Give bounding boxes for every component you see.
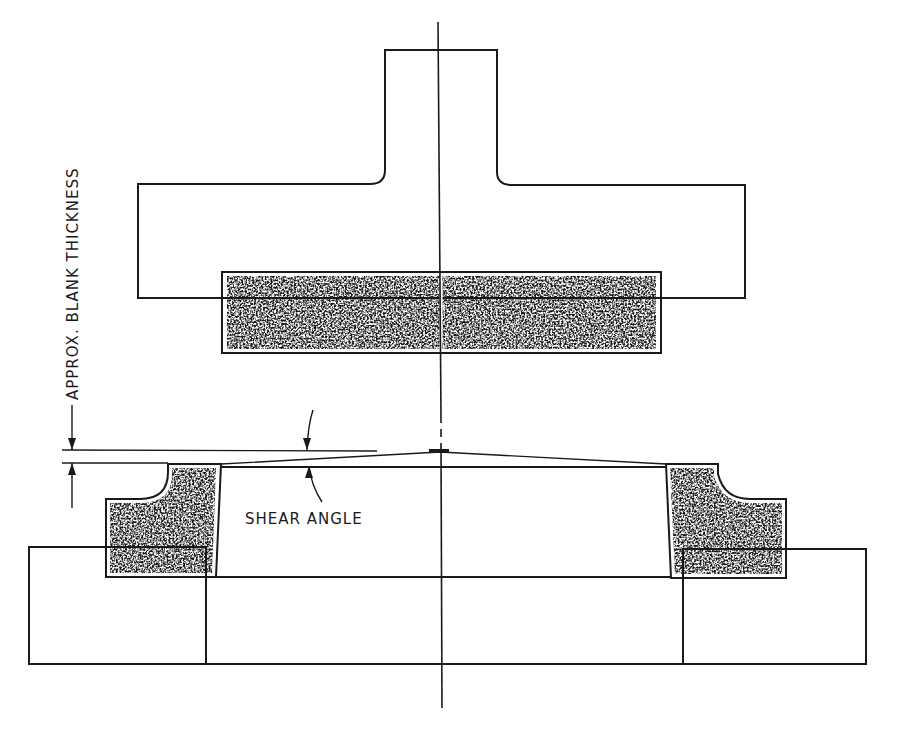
lower-die-insert-right	[666, 464, 786, 578]
die-cross-section-diagram: APPROX. BLANK THICKNESS SHEAR ANGLE	[0, 0, 897, 732]
lower-die-insert-left	[106, 464, 221, 577]
upper-punch-holder	[138, 50, 745, 298]
blank-thickness-dimension	[68, 405, 76, 508]
blank-thickness-label: APPROX. BLANK THICKNESS	[64, 168, 82, 400]
center-line	[438, 22, 442, 708]
shear-angle-label: SHEAR ANGLE	[245, 510, 363, 528]
upper-punch-insert	[222, 272, 661, 353]
blank-shear-lines	[62, 449, 666, 464]
shear-angle-indicator	[303, 410, 322, 502]
